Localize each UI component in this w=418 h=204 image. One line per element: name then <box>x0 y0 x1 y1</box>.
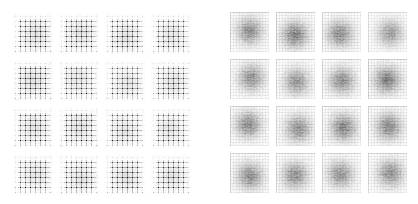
sample-image <box>151 108 191 148</box>
sample-image <box>368 106 407 146</box>
sample-image <box>105 14 145 54</box>
sample-tile <box>13 155 53 195</box>
sample-image <box>13 108 53 148</box>
sample-tile <box>276 59 315 99</box>
sample-tile <box>368 59 407 99</box>
sample-image <box>59 14 99 54</box>
sample-tile <box>322 106 361 146</box>
sample-image <box>322 59 361 99</box>
sample-image <box>13 61 53 101</box>
sample-image <box>59 155 99 195</box>
sample-image <box>276 59 315 99</box>
sample-tile <box>230 153 269 193</box>
sample-tile <box>151 108 191 148</box>
sample-image <box>276 106 315 146</box>
sample-tile <box>230 106 269 146</box>
sample-tile <box>368 12 407 52</box>
sample-image <box>322 106 361 146</box>
sample-tile <box>322 153 361 193</box>
sample-tile <box>105 155 145 195</box>
sample-tile <box>13 108 53 148</box>
sample-image <box>276 12 315 52</box>
sample-image <box>13 14 53 54</box>
sample-tile <box>59 14 99 54</box>
sample-tile <box>105 14 145 54</box>
sample-image <box>105 108 145 148</box>
sample-image <box>322 12 361 52</box>
sample-grid-left <box>13 14 191 195</box>
sample-image <box>368 59 407 99</box>
sample-image <box>230 12 269 52</box>
sample-image <box>13 155 53 195</box>
sample-tile <box>151 61 191 101</box>
sample-image <box>105 155 145 195</box>
sample-tile <box>59 108 99 148</box>
sample-image <box>368 153 407 193</box>
sample-image <box>230 153 269 193</box>
sample-image <box>368 12 407 52</box>
sample-image <box>151 155 191 195</box>
sample-tile <box>230 59 269 99</box>
sample-tile <box>276 12 315 52</box>
sample-image <box>322 153 361 193</box>
sample-tile <box>276 153 315 193</box>
sample-tile <box>322 12 361 52</box>
sample-image <box>151 14 191 54</box>
sample-tile <box>151 14 191 54</box>
sample-image <box>276 153 315 193</box>
sample-tile <box>368 106 407 146</box>
sample-image <box>59 108 99 148</box>
sample-tile <box>322 59 361 99</box>
sample-image <box>230 59 269 99</box>
sample-tile <box>59 61 99 101</box>
sample-tile <box>230 12 269 52</box>
sample-tile <box>151 155 191 195</box>
sample-tile <box>13 61 53 101</box>
sample-grid-right <box>230 12 407 193</box>
sample-tile <box>105 108 145 148</box>
sample-image <box>230 106 269 146</box>
sample-tile <box>276 106 315 146</box>
sample-image <box>151 61 191 101</box>
sample-tile <box>59 155 99 195</box>
sample-tile <box>13 14 53 54</box>
sample-tile <box>105 61 145 101</box>
sample-tile <box>368 153 407 193</box>
sample-image <box>59 61 99 101</box>
sample-image <box>105 61 145 101</box>
